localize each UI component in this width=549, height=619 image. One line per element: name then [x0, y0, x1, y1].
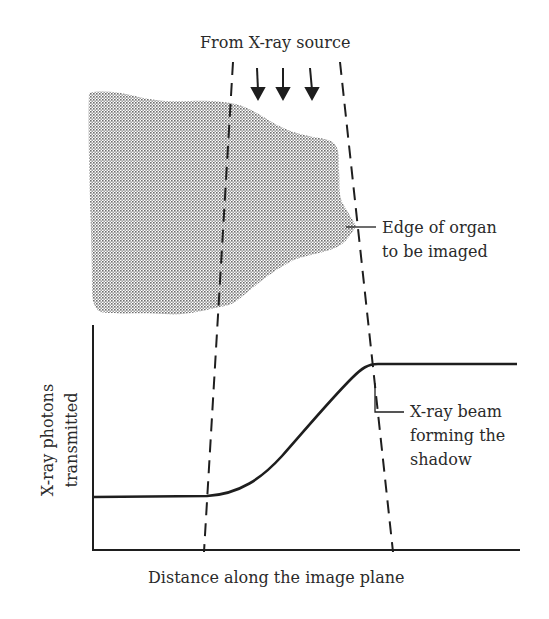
arrow-3	[310, 68, 312, 90]
beam-right-dashed-line	[340, 62, 393, 552]
organ-edge-label: Edge of organ to be imaged	[382, 216, 497, 264]
arrow-3-head	[306, 88, 318, 99]
x-axis-label: Distance along the image plane	[148, 567, 404, 589]
beam-leader	[375, 383, 404, 412]
arrow-2-head	[277, 88, 289, 99]
xray-arrows	[252, 68, 318, 99]
arrow-1	[257, 68, 258, 90]
diagram-canvas	[0, 0, 549, 619]
y-axis-label: X-ray photons transmitted	[36, 370, 84, 510]
organ-shape	[89, 92, 356, 315]
arrow-1-head	[252, 88, 264, 99]
beam-label: X-ray beam forming the shadow	[410, 400, 505, 472]
source-label: From X-ray source	[200, 32, 350, 54]
